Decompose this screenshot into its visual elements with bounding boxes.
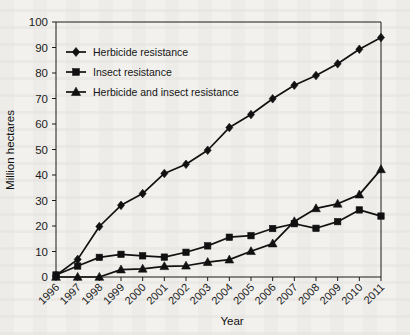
x-tick-label: 2002 [166,281,192,307]
x-axis-title: Year [220,315,243,327]
x-tick-label: 1998 [79,281,105,307]
data-point-square [139,253,145,259]
data-point-square [118,251,124,257]
data-point-diamond [356,45,363,54]
x-tick-label: 2005 [231,281,257,307]
data-point-square [313,225,319,231]
y-tick-label: 90 [35,42,48,54]
data-point-square [204,243,210,249]
x-tick-label: 2007 [274,281,300,307]
data-point-square [226,234,232,240]
y-tick-label: 80 [35,67,48,79]
data-point-square [334,218,340,224]
y-tick-label: 30 [35,195,48,207]
x-tick-label: 1997 [57,281,83,307]
legend-item-2[interactable]: Insect resistance [66,66,172,78]
data-point-square [269,225,275,231]
data-point-square [183,249,189,255]
x-tick-label: 2006 [252,281,278,307]
y-tick-label: 0 [42,271,48,283]
data-point-diamond [291,81,298,90]
y-tick-label: 100 [29,16,48,28]
data-point-square [74,263,80,269]
data-point-square [356,207,362,213]
y-tick-label: 40 [35,169,48,181]
y-tick-label: 10 [35,246,48,258]
x-tick-label: 2008 [296,281,322,307]
data-point-diamond [312,71,319,80]
data-point-square [96,254,102,260]
series-line [56,210,381,275]
data-point-diamond [269,94,276,103]
x-tick-label: 2003 [187,281,213,307]
legend-label: Insect resistance [93,66,172,78]
legend-label: Herbicide and insect resistance [93,86,239,98]
data-point-diamond [72,47,79,56]
x-tick-label: 1999 [101,281,127,307]
line-chart: 0102030405060708090100 19961997199819992… [0,0,410,335]
data-point-diamond [334,60,341,69]
x-tick-label: 2011 [361,281,386,306]
data-point-square [248,232,254,238]
y-axis-ticks: 0102030405060708090100 [29,16,56,283]
y-tick-label: 50 [35,144,48,156]
y-tick-label: 20 [35,220,48,232]
chart-legend: Herbicide resistanceInsect resistanceHer… [66,46,239,98]
x-tick-label: 2000 [122,281,148,307]
data-point-square [378,213,384,219]
x-tick-label: 2010 [339,281,365,307]
y-tick-label: 70 [35,93,48,105]
data-point-diamond [182,160,189,169]
x-tick-label: 2004 [209,281,235,307]
series-2 [53,207,384,278]
legend-label: Herbicide resistance [93,46,188,58]
plot-frame [56,22,381,277]
data-point-square [161,254,167,260]
x-axis-ticks: 1996199719981999200020012002200320042005… [36,277,387,307]
x-tick-label: 1996 [36,281,62,307]
legend-item-1[interactable]: Herbicide resistance [66,46,188,58]
data-point-diamond [377,33,384,42]
chart-figure: 0102030405060708090100 19961997199819992… [0,0,410,335]
data-point-diamond [247,110,254,119]
data-point-triangle [377,165,386,173]
data-point-square [73,69,80,76]
legend-item-3[interactable]: Herbicide and insect resistance [66,86,239,98]
y-tick-label: 60 [35,118,48,130]
y-axis-title: Million hectares [4,110,16,190]
x-tick-label: 2001 [144,281,170,307]
x-tick-label: 2009 [317,281,343,307]
